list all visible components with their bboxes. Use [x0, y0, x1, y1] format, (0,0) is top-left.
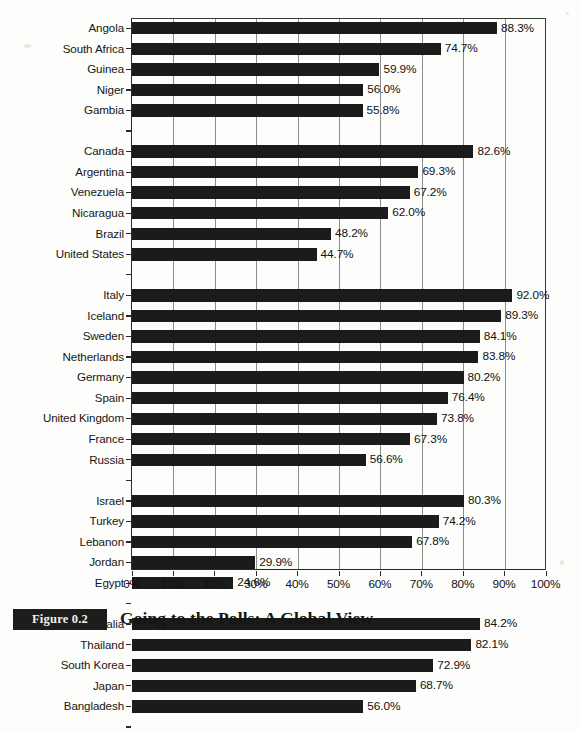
value-label-turkey: 74.2% [443, 515, 476, 529]
value-label-south-africa: 74.7% [445, 42, 478, 56]
y-axis-tick [126, 480, 132, 481]
y-axis-tick [126, 377, 132, 378]
bar-israel [132, 495, 464, 507]
chart-row: Japan68.7% [0, 676, 579, 697]
chart-row: Brazil48.2% [0, 224, 579, 245]
y-axis-tick [126, 192, 132, 193]
chart-row: Nicaragua62.0% [0, 203, 579, 224]
bar-track: 92.0% [132, 289, 579, 301]
scan-speck [566, 12, 569, 15]
value-label-japan: 68.7% [420, 679, 453, 693]
y-axis-tick [126, 418, 132, 419]
scan-speck [560, 560, 564, 565]
value-label-niger: 56.0% [367, 83, 400, 97]
bar-track: 62.0% [132, 207, 579, 219]
bar-italy [132, 289, 513, 301]
chart-row: Canada82.6% [0, 141, 579, 162]
y-axis-tick [126, 110, 132, 111]
x-axis-label-90: 90% [481, 576, 527, 592]
bar-track: 83.8% [132, 351, 579, 363]
category-label-spain: Spain [0, 388, 124, 409]
category-label-turkey: Turkey [0, 511, 124, 532]
chart-row: Gambia55.8% [0, 100, 579, 121]
value-label-sweden: 84.1% [484, 330, 517, 344]
value-label-brazil: 48.2% [335, 227, 368, 241]
x-axis-label-100: 100% [523, 576, 569, 592]
value-label-spain: 76.4% [452, 391, 485, 405]
chart-row: Jordan29.9% [0, 552, 579, 573]
figure-title: Going to the Polls: A Global View [120, 606, 373, 631]
chart-row: Italy92.0% [0, 285, 579, 306]
y-axis-tick [126, 233, 132, 234]
scan-speck [24, 44, 31, 48]
value-label-united-states: 44.7% [321, 248, 354, 262]
bar-track: 84.1% [132, 330, 579, 342]
bar-south-korea [132, 659, 434, 671]
bar-track: 55.8% [132, 104, 579, 116]
category-label-japan: Japan [0, 676, 124, 697]
y-axis-tick [126, 459, 132, 460]
category-label-lebanon: Lebanon [0, 532, 124, 553]
figure-number-badge: Figure 0.2 [13, 609, 107, 630]
chart-row: Lebanon67.8% [0, 532, 579, 553]
chart-row: South Africa74.7% [0, 39, 579, 60]
bar-track: 80.3% [132, 495, 579, 507]
y-axis-tick [126, 562, 132, 563]
value-label-south-korea: 72.9% [437, 659, 470, 673]
y-axis-tick [126, 685, 132, 686]
bar-france [132, 433, 411, 445]
chart-group-separator [0, 121, 579, 142]
y-axis-tick [126, 213, 132, 214]
chart-group-separator [0, 265, 579, 286]
bar-track: 67.2% [132, 186, 579, 198]
y-axis-tick [126, 541, 132, 542]
category-label-italy: Italy [0, 285, 124, 306]
x-axis-label-40: 40% [274, 576, 320, 592]
y-axis-tick [126, 28, 132, 29]
bar-track: 74.2% [132, 515, 579, 527]
chart-row: Israel80.3% [0, 491, 579, 512]
chart-row: Sweden84.1% [0, 326, 579, 347]
value-label-italy: 92.0% [516, 289, 549, 303]
category-label-thailand: Thailand [0, 635, 124, 656]
chart-row: Germany80.2% [0, 367, 579, 388]
bar-track: 56.0% [132, 84, 579, 96]
value-label-thailand: 82.1% [475, 638, 508, 652]
value-label-jordan: 29.9% [259, 556, 292, 570]
y-axis-tick [126, 151, 132, 152]
bar-south-africa [132, 43, 441, 55]
bar-iceland [132, 310, 502, 322]
category-label-sweden: Sweden [0, 326, 124, 347]
y-axis-tick [126, 521, 132, 522]
bar-track: 89.3% [132, 310, 579, 322]
bar-germany [132, 371, 464, 383]
y-axis-tick [126, 89, 132, 90]
x-axis: 0%10%20%30%40%50%60%70%80%90%100% [0, 571, 579, 593]
value-label-gambia: 55.8% [367, 104, 400, 118]
bar-track: 73.8% [132, 413, 579, 425]
bar-track: 76.4% [132, 392, 579, 404]
y-axis-tick [126, 274, 132, 275]
category-label-venezuela: Venezuela [0, 182, 124, 203]
chart-row: Netherlands83.8% [0, 347, 579, 368]
chart-row: United Kingdom73.8% [0, 408, 579, 429]
category-label-brazil: Brazil [0, 224, 124, 245]
value-label-bangladesh: 56.0% [367, 700, 400, 714]
chart-group-separator [0, 470, 579, 491]
y-axis-tick [126, 439, 132, 440]
bar-nicaragua [132, 207, 389, 219]
bar-track: 44.7% [132, 248, 579, 260]
y-axis-tick [126, 69, 132, 70]
y-axis-tick [126, 254, 132, 255]
bar-netherlands [132, 351, 479, 363]
chart-row: Argentina69.3% [0, 162, 579, 183]
bar-track: 29.9% [132, 556, 579, 568]
category-label-united-kingdom: United Kingdom [0, 408, 124, 429]
bar-track: 59.9% [132, 63, 579, 75]
bar-venezuela [132, 186, 410, 198]
x-axis-label-50: 50% [316, 576, 362, 592]
bar-track: 88.3% [132, 22, 579, 34]
category-label-south-africa: South Africa [0, 39, 124, 60]
